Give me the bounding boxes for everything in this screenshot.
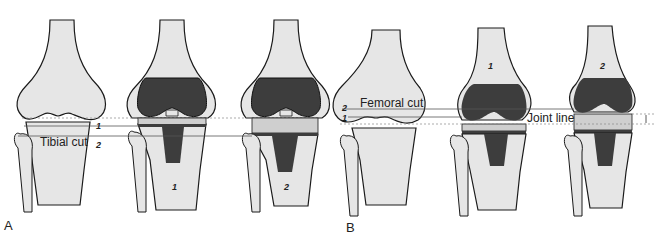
tibial-cut-label: Tibial cut [40, 136, 88, 148]
panel-b-label: B [346, 222, 355, 234]
panel-a-line-marker-1: 1 [96, 120, 101, 132]
joint-line-label: Joint line [527, 112, 574, 124]
panel-b-tka-2 [564, 26, 635, 216]
femoral-cut-label: Femoral cut [360, 97, 423, 109]
panel-a-knee-number-1: 1 [172, 181, 177, 193]
panel-a-line-marker-2: 2 [96, 139, 101, 151]
panel-a-native-knee [14, 20, 105, 212]
panel-b-line-marker-1: 1 [342, 112, 347, 124]
panel-b-tka-1 [450, 28, 531, 216]
panel-a-knee-number-2: 2 [284, 181, 289, 193]
panel-b-knee-number-1: 1 [488, 60, 493, 72]
knee-arthroplasty-diagram: A Tibial cut 1 2 1 2 B Femoral cut Joint… [0, 0, 663, 241]
panel-b-knee-number-2: 2 [600, 60, 605, 72]
panel-a-label: A [4, 220, 13, 232]
